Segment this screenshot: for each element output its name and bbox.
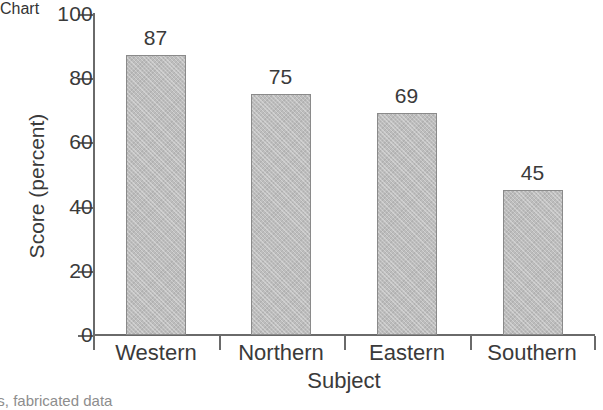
bar-group-eastern: 69	[344, 13, 469, 335]
y-tick-label: 40	[23, 196, 93, 217]
bar-value-eastern: 69	[362, 85, 452, 106]
bar-northern[interactable]	[251, 94, 311, 336]
plot-area: 87 75 69 45	[93, 13, 595, 335]
bar-value-northern: 75	[236, 66, 326, 87]
bar-eastern[interactable]	[377, 113, 437, 335]
bar-value-southern: 45	[488, 162, 578, 183]
bar-group-western: 87	[93, 13, 218, 335]
y-tick-label: 100	[23, 3, 93, 24]
x-category-label-southern: Southern	[457, 340, 603, 366]
x-axis-title: Subject	[93, 368, 595, 394]
figure-caption: ers, fabricated data	[0, 392, 112, 409]
bar-southern[interactable]	[503, 190, 563, 335]
bar-value-western: 87	[111, 27, 201, 48]
bar-western[interactable]	[126, 55, 186, 335]
y-tick-label: 60	[23, 131, 93, 152]
y-tick-label: 80	[23, 67, 93, 88]
bar-chart: Score (percent) 100 80 60 40 20 0 87 75	[0, 0, 603, 410]
bar-group-northern: 75	[218, 13, 343, 335]
bar-group-southern: 45	[470, 13, 595, 335]
y-tick-label: 20	[23, 260, 93, 281]
